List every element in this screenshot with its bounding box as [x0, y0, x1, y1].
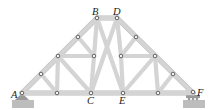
- label-C: C: [87, 95, 95, 106]
- label-E: E: [118, 95, 126, 106]
- label-B: B: [92, 6, 99, 17]
- label-D: D: [112, 6, 121, 17]
- label-A: A: [10, 89, 18, 100]
- truss-members: [22, 18, 193, 93]
- joint-A: [20, 91, 24, 95]
- joint-F: [191, 90, 195, 94]
- left-ground-block: [12, 100, 34, 108]
- truss-diagram: A B D C E F: [0, 0, 214, 110]
- label-F: F: [196, 87, 204, 98]
- right-ground-block: [183, 100, 205, 108]
